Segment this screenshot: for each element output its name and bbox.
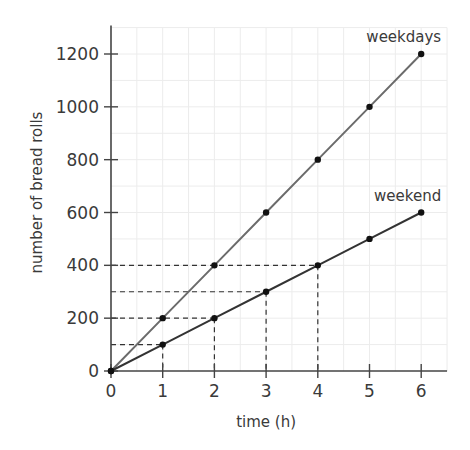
series-label-weekend: weekend [374, 187, 441, 205]
line-chart: 0123456020040060080010001200 time (h)num… [0, 0, 470, 450]
data-point [418, 209, 424, 215]
x-tick-label: 6 [416, 381, 427, 401]
x-tick-label: 2 [209, 381, 220, 401]
y-tick-label: 0 [88, 361, 99, 381]
data-point [315, 262, 321, 268]
data-point [315, 156, 321, 162]
series-label-weekdays: weekdays [366, 28, 441, 46]
data-point [211, 262, 217, 268]
x-tick-label: 5 [364, 381, 375, 401]
y-tick-label: 200 [67, 308, 99, 328]
x-axis-title: time (h) [236, 413, 296, 431]
x-tick-label: 4 [312, 381, 323, 401]
y-tick-label: 1000 [56, 97, 99, 117]
y-axis-title: number of bread rolls [28, 111, 46, 273]
y-tick-label: 600 [67, 203, 99, 223]
data-point [263, 289, 269, 295]
data-point [366, 104, 372, 110]
data-point [211, 315, 217, 321]
data-point [366, 236, 372, 242]
x-tick-label: 3 [261, 381, 272, 401]
data-point [160, 315, 166, 321]
data-point [160, 341, 166, 347]
y-tick-label: 400 [67, 255, 99, 275]
x-tick-label: 1 [157, 381, 168, 401]
x-tick-label: 0 [106, 381, 117, 401]
y-tick-label: 1200 [56, 44, 99, 64]
y-tick-label: 800 [67, 150, 99, 170]
data-point [108, 368, 114, 374]
data-point [263, 209, 269, 215]
data-point [418, 51, 424, 57]
